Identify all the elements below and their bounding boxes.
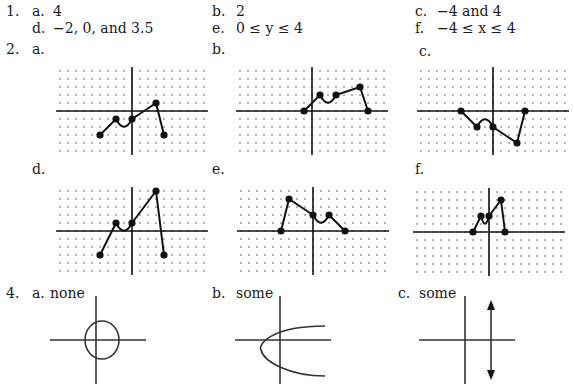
arrow-down-icon	[487, 370, 495, 380]
sketch-4c-vertical-line	[0, 0, 574, 388]
arrow-up-icon	[487, 300, 495, 310]
